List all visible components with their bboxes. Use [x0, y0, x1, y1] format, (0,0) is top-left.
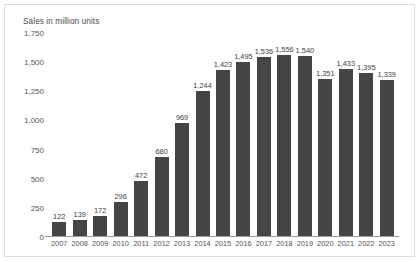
- bar-group: 472: [131, 33, 151, 236]
- y-axis-tick-label: 1,750: [24, 29, 44, 38]
- bar-value-label: 1,556: [275, 45, 294, 55]
- bar-value-label: 680: [155, 147, 167, 157]
- bar-group: 1,351: [315, 33, 335, 236]
- y-axis-tick-label: 1,500: [24, 58, 44, 67]
- bar-group: 1,556: [274, 33, 294, 236]
- x-axis-tick-label: 2018: [274, 239, 294, 248]
- bar[interactable]: [257, 57, 271, 236]
- bar-group: 1,244: [192, 33, 212, 236]
- y-axis-tick-label: 500: [31, 174, 44, 183]
- x-axis-tick-label: 2009: [90, 239, 110, 248]
- bar-group: 296: [110, 33, 130, 236]
- bar-value-label: 1,351: [316, 69, 335, 79]
- bar-value-label: 1,339: [377, 70, 396, 80]
- bar-series: 1221391722964726809691,2441,4231,4951,53…: [49, 33, 397, 236]
- bar[interactable]: [298, 56, 312, 236]
- x-axis-tick-label: 2010: [110, 239, 130, 248]
- bar-value-label: 1,536: [255, 47, 274, 57]
- bar-group: 1,536: [254, 33, 274, 236]
- x-axis-tick-label: 2014: [192, 239, 212, 248]
- y-axis-tick-label: 250: [31, 203, 44, 212]
- bar-value-label: 122: [53, 212, 65, 222]
- x-axis-tick-label: 2012: [151, 239, 171, 248]
- bar-group: 1,423: [213, 33, 233, 236]
- x-axis-tick-label: 2023: [377, 239, 397, 248]
- x-axis-line: [45, 236, 399, 237]
- bar[interactable]: [134, 181, 148, 236]
- x-axis-tick-label: 2017: [254, 239, 274, 248]
- x-axis-tick-label: 2013: [172, 239, 192, 248]
- bar-value-label: 1,395: [357, 63, 376, 73]
- x-axis-tick-label: 2015: [213, 239, 233, 248]
- bar[interactable]: [318, 79, 332, 236]
- bar-value-label: 1,244: [193, 81, 212, 91]
- y-axis-tick-label: 750: [31, 145, 44, 154]
- bar[interactable]: [175, 123, 189, 236]
- x-axis-tick-labels: 2007200820092010201120122013201420152016…: [49, 239, 397, 248]
- chart-container: Sales in million units 02505007501,0001,…: [4, 4, 415, 257]
- x-axis-tick-label: 2020: [315, 239, 335, 248]
- bar[interactable]: [236, 62, 250, 236]
- bar-group: 1,339: [377, 33, 397, 236]
- bar[interactable]: [216, 70, 230, 236]
- bar[interactable]: [73, 220, 87, 236]
- bar[interactable]: [155, 157, 169, 236]
- x-axis-tick-label: 2022: [356, 239, 376, 248]
- bar-group: 1,433: [336, 33, 356, 236]
- bar-group: 969: [172, 33, 192, 236]
- bar-value-label: 139: [74, 210, 86, 220]
- bar-value-label: 1,433: [337, 59, 356, 69]
- bar-group: 1,495: [233, 33, 253, 236]
- bar[interactable]: [93, 216, 107, 236]
- bar-value-label: 472: [135, 171, 147, 181]
- x-axis-tick-label: 2011: [131, 239, 151, 248]
- bar-group: 1,540: [295, 33, 315, 236]
- y-axis-tick-label: 1,000: [24, 116, 44, 125]
- bar[interactable]: [114, 202, 128, 237]
- chart-title: Sales in million units: [23, 17, 99, 26]
- bar-group: 1,395: [356, 33, 376, 236]
- bar[interactable]: [277, 55, 291, 236]
- bar[interactable]: [52, 222, 66, 236]
- y-axis-tick-label: 1,250: [24, 87, 44, 96]
- bar-value-label: 969: [176, 113, 188, 123]
- x-axis-tick-label: 2008: [69, 239, 89, 248]
- bar-value-label: 1,495: [234, 52, 253, 62]
- bar-value-label: 296: [114, 192, 126, 202]
- bar-group: 680: [151, 33, 171, 236]
- bar[interactable]: [380, 80, 394, 236]
- bar-value-label: 1,540: [296, 46, 315, 56]
- bar-value-label: 1,423: [214, 60, 233, 70]
- bar-group: 172: [90, 33, 110, 236]
- bar[interactable]: [359, 73, 373, 236]
- y-axis-tick-label: 0: [40, 233, 44, 242]
- bar-value-label: 172: [94, 206, 106, 216]
- bar[interactable]: [196, 91, 210, 236]
- x-axis-tick-label: 2007: [49, 239, 69, 248]
- plot-area: 02505007501,0001,2501,5001,750 122139172…: [49, 33, 397, 237]
- x-axis-tick-label: 2016: [233, 239, 253, 248]
- bar-group: 139: [69, 33, 89, 236]
- bar-group: 122: [49, 33, 69, 236]
- x-axis-tick-label: 2021: [336, 239, 356, 248]
- x-axis-tick-label: 2019: [295, 239, 315, 248]
- bar[interactable]: [339, 69, 353, 236]
